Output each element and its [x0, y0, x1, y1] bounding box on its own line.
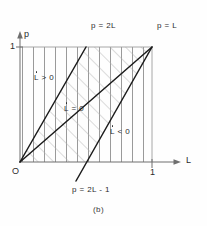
- figure-panel-b: p L 1 1 O p = 2L p = L p = 2L - 1 L > 0 …: [0, 0, 207, 226]
- figure-caption: (b): [93, 206, 104, 214]
- x-axis-label: L: [186, 156, 191, 165]
- region-label-Ldot-zero-relation: = 0: [69, 104, 84, 113]
- y-tick-label-1: 1: [10, 42, 15, 51]
- region-label-Ldot-negative-symbol: L: [110, 128, 115, 136]
- curve-label-p-equals-2L-minus-1: p = 2L - 1: [72, 186, 110, 194]
- x-tick-label-1: 1: [150, 168, 155, 177]
- region-label-Ldot-negative-relation: < 0: [115, 127, 130, 136]
- region-label-Ldot-negative: L < 0: [110, 128, 130, 136]
- region-label-Ldot-positive: L > 0: [34, 74, 54, 82]
- region-label-Ldot-zero: L = 0: [64, 105, 84, 113]
- y-axis-label: p: [24, 30, 29, 39]
- x-axis-arrowhead: [174, 159, 182, 165]
- curve-label-p-equals-L: p = L: [157, 22, 177, 30]
- region-label-Ldot-zero-symbol: L: [64, 105, 69, 113]
- y-axis-arrowhead: [17, 31, 23, 39]
- region-label-Ldot-positive-relation: > 0: [39, 73, 54, 82]
- region-label-Ldot-positive-symbol: L: [34, 74, 39, 82]
- origin-label: O: [12, 167, 19, 176]
- curve-label-p-equals-2L: p = 2L: [91, 22, 116, 30]
